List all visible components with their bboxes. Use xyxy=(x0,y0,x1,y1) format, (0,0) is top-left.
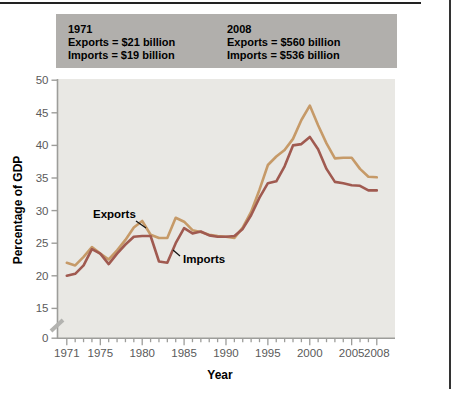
x-tick-label-1971: 1971 xyxy=(54,347,80,359)
y-tick-label-15: 15 xyxy=(36,302,49,314)
y-tick-label-50: 50 xyxy=(36,74,49,86)
x-tick-label-2005: 2005 xyxy=(339,347,365,359)
x-tick-label-2000: 2000 xyxy=(297,347,323,359)
y-tick-label-0: 0 xyxy=(42,332,48,344)
summary-2008-exports: Exports = $560 billion xyxy=(227,36,340,49)
summary-1971-year: 1971 xyxy=(68,23,175,36)
imports-line-label: Imports xyxy=(183,253,225,265)
x-tick-label-1990: 1990 xyxy=(213,347,239,359)
x-axis-title: Year xyxy=(207,368,233,382)
x-tick-label-2008: 2008 xyxy=(364,347,390,359)
page-right-rule xyxy=(449,0,451,389)
y-tick-label-45: 45 xyxy=(36,107,49,119)
y-tick-label-20: 20 xyxy=(36,270,49,282)
y-tick-label-30: 30 xyxy=(36,205,49,217)
y-tick-label-35: 35 xyxy=(36,172,49,184)
summary-1971-exports: Exports = $21 billion xyxy=(68,36,175,49)
x-tick-label-1980: 1980 xyxy=(129,347,155,359)
x-tick-label-1985: 1985 xyxy=(171,347,197,359)
summary-1971: 1971 Exports = $21 billion Imports = $19… xyxy=(68,23,175,62)
page-top-rule xyxy=(0,2,421,4)
summary-2008: 2008 Exports = $560 billion Imports = $5… xyxy=(227,23,340,62)
exports-line-label: Exports xyxy=(93,208,136,220)
textbook-figure-page: 0152025303540455019711975198019851990199… xyxy=(0,0,456,399)
summary-box: 1971 Exports = $21 billion Imports = $19… xyxy=(56,14,397,68)
x-tick-label-1975: 1975 xyxy=(88,347,114,359)
y-tick-label-40: 40 xyxy=(36,139,49,151)
y-axis-title: Percentage of GDP xyxy=(11,156,25,265)
summary-2008-year: 2008 xyxy=(227,23,340,36)
y-tick-label-25: 25 xyxy=(36,237,49,249)
x-tick-label-1995: 1995 xyxy=(255,347,281,359)
summary-2008-imports: Imports = $536 billion xyxy=(227,49,340,62)
summary-1971-imports: Imports = $19 billion xyxy=(68,49,175,62)
